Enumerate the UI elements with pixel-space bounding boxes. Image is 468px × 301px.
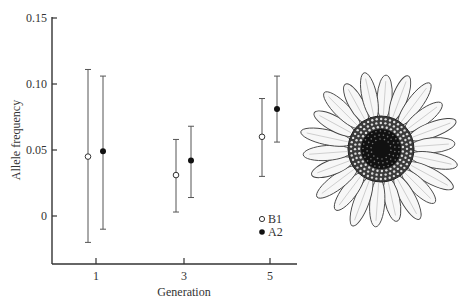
y-tick-label: 0.05 — [26, 143, 47, 157]
y-tick-label: 0.15 — [26, 11, 47, 25]
error-bar-a2-gen3 — [188, 126, 194, 197]
legend: B1 A2 — [259, 212, 282, 239]
legend-label-a2: A2 — [268, 225, 283, 239]
filled-circle-marker-icon — [259, 229, 265, 235]
daisy-flower-illustration — [299, 71, 459, 228]
legend-label-b1: B1 — [268, 212, 282, 226]
x-axis: 1 3 5 Generation — [52, 258, 297, 299]
allele-frequency-chart: 0.15 0.10 0.05 0 Allele frequency 1 3 5 … — [0, 0, 468, 301]
x-tick-label: 3 — [181, 269, 187, 283]
x-tick-label: 1 — [93, 269, 99, 283]
data-series — [85, 69, 280, 242]
y-tick-label: 0.10 — [26, 77, 47, 91]
y-axis: 0.15 0.10 0.05 0 Allele frequency — [9, 11, 57, 264]
error-bar-a2-gen1 — [100, 76, 106, 229]
x-tick-label: 5 — [267, 269, 273, 283]
error-bar-b1-gen3 — [173, 139, 179, 212]
error-bar-a2-gen5 — [274, 76, 280, 142]
y-axis-label: Allele frequency — [9, 100, 23, 180]
open-circle-marker-icon — [259, 216, 264, 221]
x-axis-label: Generation — [157, 285, 210, 299]
y-tick-label: 0 — [41, 209, 47, 223]
error-bar-b1-gen1 — [85, 69, 91, 242]
error-bar-b1-gen5 — [259, 99, 265, 177]
